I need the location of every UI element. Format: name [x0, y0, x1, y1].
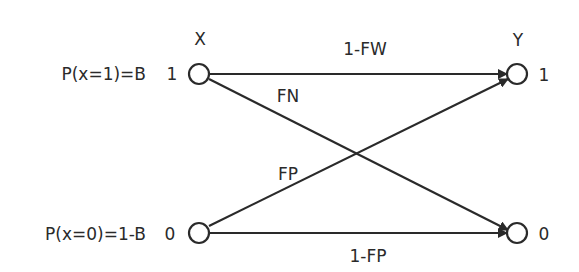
- edge-label-fn: FN: [277, 86, 300, 106]
- input-0-state: 0: [165, 224, 176, 244]
- binary-channel-diagram: X Y P(x=1)=B P(x=0)=1-B 1 0 1 0 1-FW FN …: [0, 0, 579, 272]
- input-header: X: [194, 29, 206, 49]
- output-node-0: [507, 223, 527, 243]
- input-0-prob-label: P(x=0)=1-B: [45, 224, 146, 244]
- output-header: Y: [512, 30, 524, 50]
- edge-label-1-fp: 1-FP: [350, 246, 387, 266]
- input-node-0: [189, 223, 209, 243]
- edge-label-1-fw: 1-FW: [343, 39, 387, 59]
- input-1-prob-label: P(x=1)=B: [61, 64, 146, 84]
- output-0-state: 0: [539, 224, 550, 244]
- output-1-state: 1: [539, 65, 550, 85]
- input-1-state: 1: [167, 64, 178, 84]
- output-node-1: [507, 64, 527, 84]
- input-node-1: [189, 64, 209, 84]
- edge-label-fp: FP: [278, 164, 298, 184]
